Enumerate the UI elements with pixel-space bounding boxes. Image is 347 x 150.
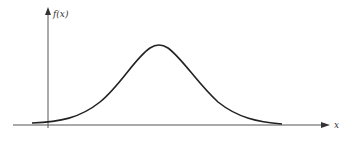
x-axis-label: x: [334, 120, 339, 130]
y-axis-arrow-icon: [45, 7, 51, 15]
bell-curve: [32, 45, 282, 124]
bell-curve-diagram: f(x) x: [0, 0, 347, 150]
y-axis-label: f(x): [52, 9, 69, 19]
x-axis-arrow-icon: [321, 122, 330, 128]
